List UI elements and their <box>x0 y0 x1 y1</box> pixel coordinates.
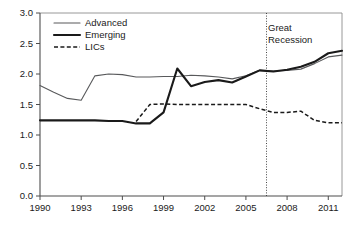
y-tick-label: 1.0 <box>20 129 33 140</box>
y-tick-label: 3.0 <box>20 7 33 18</box>
recession-label-line1: Great <box>268 22 292 33</box>
legend-label-advanced: Advanced <box>85 17 127 28</box>
series-line-emerging <box>40 51 342 124</box>
x-tick-label: 2005 <box>235 202 256 213</box>
y-tick-label: 1.5 <box>20 99 33 110</box>
series-line-advanced <box>40 55 342 100</box>
y-tick-label: 0.5 <box>20 160 33 171</box>
recession-label-line2: Recession <box>268 34 312 45</box>
x-axis-ticks: 19901993199619992002200520082011 <box>29 196 338 213</box>
recession-annotation: Great Recession <box>267 13 313 196</box>
x-tick-label: 1996 <box>112 202 133 213</box>
x-tick-label: 2002 <box>194 202 215 213</box>
chart-legend: Advanced Emerging LICs <box>54 17 127 52</box>
series-group <box>40 51 342 124</box>
legend-label-emerging: Emerging <box>85 29 126 40</box>
x-tick-label: 1993 <box>71 202 92 213</box>
y-tick-label: 0.0 <box>20 190 33 201</box>
x-tick-label: 1990 <box>29 202 50 213</box>
y-axis-ticks: 0.00.51.01.52.02.53.0 <box>20 7 40 201</box>
line-chart: 0.00.51.01.52.02.53.0 199019931996199920… <box>0 0 355 233</box>
x-tick-label: 2008 <box>277 202 298 213</box>
y-tick-label: 2.5 <box>20 38 33 49</box>
x-tick-label: 2011 <box>318 202 338 213</box>
legend-label-lics: LICs <box>85 41 105 52</box>
chart-figure: 0.00.51.01.52.02.53.0 199019931996199920… <box>0 0 355 233</box>
y-tick-label: 2.0 <box>20 68 33 79</box>
series-line-lics <box>136 104 342 123</box>
x-tick-label: 1999 <box>153 202 174 213</box>
